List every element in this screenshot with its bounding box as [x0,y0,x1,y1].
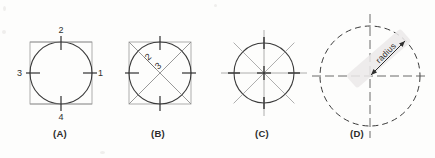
panel-b-label-2: 2 [143,51,153,62]
panel-c-group [221,30,307,116]
panel-a-label-3: 3 [17,68,22,78]
panel-caption-b: (B) [138,128,178,139]
panel-b-label-3: 3 [153,60,163,71]
figure-container: 1 2 3 4 2 3 [0,0,435,158]
panel-a-label-1: 1 [98,68,103,78]
panel-caption-a: (A) [40,128,80,139]
panel-b-group: 2 3 [125,36,196,111]
panel-a-label-4: 4 [58,112,63,122]
panel-caption-c: (C) [242,128,282,139]
panel-d-group: radius [312,14,428,138]
panel-a-label-2: 2 [58,25,63,35]
panel-caption-d: (D) [337,128,377,139]
panel-a-group: 1 2 3 4 [17,25,103,122]
